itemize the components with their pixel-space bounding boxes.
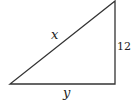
hypotenuse-label: x <box>51 27 59 42</box>
triangle-diagram: x 12 y <box>0 0 131 101</box>
vertical-leg-label: 12 <box>117 40 131 53</box>
horizontal-leg-label: y <box>62 85 71 100</box>
right-triangle <box>10 1 115 84</box>
